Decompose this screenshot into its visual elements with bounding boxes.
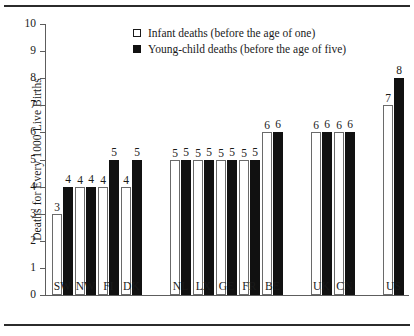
bar-value-label: 5 — [206, 146, 212, 159]
bar-value-label: 6 — [264, 119, 270, 132]
bar-fi-young-child: 5 — [109, 160, 119, 296]
y-axis-tick: 0 — [40, 295, 46, 296]
bar-value-label: 5 — [172, 147, 178, 160]
bar-value-label: 6 — [324, 118, 330, 131]
bar-uk-infant: 6 — [311, 132, 321, 295]
y-axis-tick-label: 5 — [30, 152, 36, 166]
y-axis-tick: 8 — [40, 78, 46, 79]
x-axis-label-nl: NL — [173, 279, 189, 293]
bar-value-label: 6 — [275, 118, 281, 131]
y-axis-tick: 2 — [40, 241, 46, 242]
y-axis-tick-label: 10 — [25, 16, 37, 30]
y-axis-tick: 7 — [40, 105, 46, 106]
x-axis-label-fr: FR — [242, 279, 256, 293]
bottom-divider-rule — [4, 324, 410, 326]
bar-fr-infant: 5 — [239, 160, 249, 296]
bar-dk-young-child: 5 — [132, 160, 142, 296]
x-axis-line — [45, 295, 409, 296]
bar-cn-infant: 6 — [334, 132, 344, 295]
y-axis-tick-label: 0 — [30, 287, 36, 301]
bar-value-label: 4 — [65, 173, 71, 186]
bar-value-label: 5 — [111, 146, 117, 159]
y-axis-tick: 10 — [40, 24, 46, 25]
bar-cn-young-child: 6 — [345, 132, 355, 295]
bar-nl-young-child: 5 — [181, 160, 191, 296]
bar-be-infant: 6 — [262, 132, 272, 295]
bar-value-label: 4 — [123, 174, 129, 187]
bar-ge-young-child: 5 — [227, 160, 237, 296]
bar-be-young-child: 6 — [273, 132, 283, 295]
y-axis-tick: 3 — [40, 214, 46, 215]
y-axis-tick-label: 8 — [30, 70, 36, 84]
y-axis-tick-label: 7 — [30, 97, 36, 111]
x-axis-label-lx: LX — [196, 279, 212, 293]
y-axis-tick-label: 2 — [30, 233, 36, 247]
bar-lx-infant: 5 — [193, 160, 203, 296]
y-axis-tick-label: 1 — [30, 260, 36, 274]
bar-value-label: 5 — [183, 146, 189, 159]
y-axis-tick: 9 — [40, 51, 46, 52]
bar-value-label: 5 — [218, 147, 224, 160]
bar-value-label: 5 — [229, 146, 235, 159]
bar-value-label: 3 — [54, 201, 60, 214]
bar-fr-young-child: 5 — [250, 160, 260, 296]
bar-value-label: 5 — [252, 146, 258, 159]
y-axis-tick: 4 — [40, 187, 46, 188]
chart-figure: Deaths for Every 1000 Live Births Infant… — [0, 0, 414, 336]
bar-value-label: 6 — [313, 119, 319, 132]
bar-uk-young-child: 6 — [322, 132, 332, 295]
bar-value-label: 6 — [347, 118, 353, 131]
bar-us-young-child: 8 — [394, 78, 404, 295]
bar-lx-young-child: 5 — [204, 160, 214, 296]
bar-us-infant: 7 — [383, 105, 393, 295]
bar-value-label: 8 — [396, 64, 402, 77]
bar-value-label: 5 — [241, 147, 247, 160]
y-axis-tick: 1 — [40, 268, 46, 269]
bar-nl-infant: 5 — [170, 160, 180, 296]
x-axis-label-us: US — [386, 279, 401, 293]
bar-value-label: 7 — [385, 92, 391, 105]
x-axis-label-uk: UK — [313, 279, 330, 293]
y-axis-tick-label: 4 — [30, 179, 36, 193]
x-axis-label-dk: DK — [123, 279, 140, 293]
plot-area: 012345678910 344445455555555566666678 — [46, 24, 410, 295]
bar-value-label: 4 — [77, 174, 83, 187]
bar-ge-infant: 5 — [216, 160, 226, 296]
bar-value-label: 4 — [88, 173, 94, 186]
x-axis-label-cn: CN — [336, 279, 352, 293]
bar-value-label: 5 — [195, 147, 201, 160]
y-axis-tick: 5 — [40, 160, 46, 161]
bar-value-label: 4 — [100, 174, 106, 187]
y-axis-tick-label: 6 — [30, 124, 36, 138]
x-axis-label-ge: GE — [219, 279, 235, 293]
x-axis-label-sw: SW — [54, 279, 72, 293]
bar-value-label: 5 — [134, 146, 140, 159]
x-axis-label-fi: FI — [103, 279, 114, 293]
x-axis-label-nw: NW — [76, 279, 96, 293]
y-axis-tick-label: 9 — [30, 43, 36, 57]
bar-value-label: 6 — [336, 119, 342, 132]
top-divider-rule — [4, 5, 410, 7]
x-axis-label-be: BE — [265, 279, 280, 293]
y-axis-tick: 6 — [40, 132, 46, 133]
y-axis-tick-label: 3 — [30, 206, 36, 220]
